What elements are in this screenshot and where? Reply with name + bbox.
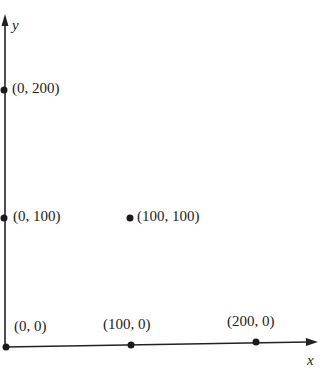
x-axis xyxy=(5,342,308,347)
point-100-100 xyxy=(127,215,134,222)
point-label-100-100: (100, 100) xyxy=(137,208,200,225)
point-label-0-200: (0, 200) xyxy=(12,80,60,97)
point-100-0 xyxy=(128,342,135,349)
x-axis-label: x xyxy=(307,352,314,369)
point-200-0 xyxy=(253,339,260,346)
x-axis-arrow-icon xyxy=(306,338,318,346)
point-label-200-0: (200, 0) xyxy=(227,313,275,330)
point-0-0 xyxy=(3,344,10,351)
point-label-0-100: (0, 100) xyxy=(13,208,61,225)
point-0-200 xyxy=(1,87,8,94)
point-label-0-0: (0, 0) xyxy=(14,318,47,335)
y-axis-label: y xyxy=(12,17,19,34)
point-0-100 xyxy=(1,215,8,222)
y-axis-arrow-icon xyxy=(2,14,9,26)
point-label-100-0: (100, 0) xyxy=(103,316,151,333)
